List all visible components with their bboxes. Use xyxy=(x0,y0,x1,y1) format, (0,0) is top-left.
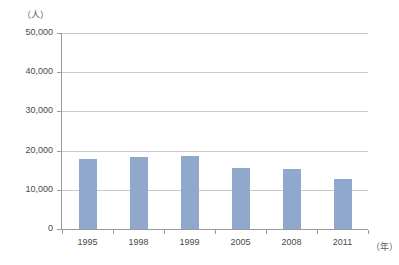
x-axis-tick-mark xyxy=(164,230,165,234)
x-axis-tick-mark xyxy=(368,230,369,234)
x-axis-tick-label: 1998 xyxy=(119,238,159,247)
bar xyxy=(181,156,199,229)
gridline xyxy=(62,111,368,112)
x-axis-unit-label: （年） xyxy=(371,240,398,253)
bar xyxy=(334,179,352,229)
gridline xyxy=(62,151,368,152)
x-axis-tick-label: 2011 xyxy=(323,238,363,247)
bar xyxy=(130,157,148,229)
gridline xyxy=(62,72,368,73)
x-axis-tick-label: 2005 xyxy=(221,238,261,247)
y-axis-tick-label: 20,000 xyxy=(25,146,53,155)
y-axis-tick-label: 50,000 xyxy=(25,28,53,37)
bar xyxy=(79,159,97,229)
plot-area xyxy=(62,33,368,229)
bar xyxy=(283,169,301,229)
x-axis-tick-mark xyxy=(113,230,114,234)
bar-chart: （人） （年） 50,00040,00030,00020,00010,0000 … xyxy=(0,0,399,265)
x-axis-tick-label: 2008 xyxy=(272,238,312,247)
y-axis-tick-label: 40,000 xyxy=(25,67,53,76)
x-axis-origin-tick-mark xyxy=(62,230,63,234)
x-axis-tick-label: 1999 xyxy=(170,238,210,247)
y-axis-tick-label: 0 xyxy=(48,224,53,233)
gridline xyxy=(62,33,368,34)
y-axis-unit-label: （人） xyxy=(22,8,49,21)
x-axis-tick-label: 1995 xyxy=(68,238,108,247)
x-axis-tick-mark xyxy=(215,230,216,234)
gridline xyxy=(62,190,368,191)
bar xyxy=(232,168,250,229)
x-axis-tick-mark xyxy=(317,230,318,234)
x-axis-tick-mark xyxy=(266,230,267,234)
y-axis-tick-label: 10,000 xyxy=(25,185,53,194)
y-axis-tick-label: 30,000 xyxy=(25,106,53,115)
